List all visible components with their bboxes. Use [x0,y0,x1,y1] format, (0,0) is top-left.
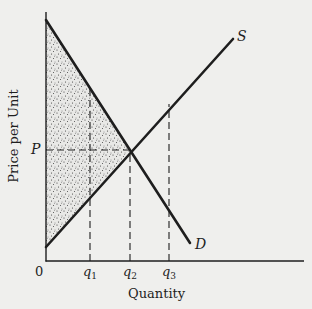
demand-label-d: D [195,236,206,252]
chart-canvas: Price per Unit Quantity P S D 0 q1 q2 q3 [0,0,312,309]
surplus-region [46,20,130,247]
q2-tick-label: q2 [123,264,137,279]
q1-tick-label: q1 [83,264,97,279]
origin-tick-label: 0 [35,264,43,279]
q2-subscript: 2 [131,271,137,281]
q3-subscript: 3 [170,271,176,281]
price-label-p: P [31,141,40,157]
q3-tick-label: q3 [162,264,176,279]
q1-subscript: 1 [91,271,97,281]
chart-plot [0,0,312,309]
supply-label-s: S [237,28,247,44]
x-axis-label: Quantity [128,286,185,301]
y-axis-label: Price per Unit [6,89,21,182]
